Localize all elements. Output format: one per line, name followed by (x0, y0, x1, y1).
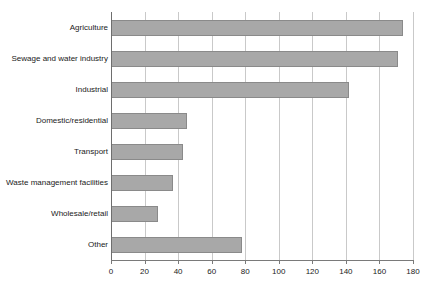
bar (111, 144, 183, 160)
category-label: Other (3, 240, 108, 250)
bar-row (111, 105, 413, 136)
bar (111, 237, 242, 253)
tick-mark-80 (245, 260, 246, 264)
tick-label-100: 100 (272, 267, 285, 276)
y-axis-line (111, 12, 112, 261)
tick-label-180: 180 (406, 267, 419, 276)
bar (111, 175, 173, 191)
plot-area (111, 12, 413, 260)
category-label: Domestic/residential (3, 116, 108, 126)
tick-label-160: 160 (373, 267, 386, 276)
tick-mark-140 (346, 260, 347, 264)
bar-row (111, 12, 413, 43)
tick-label-0: 0 (109, 267, 113, 276)
bar-row (111, 198, 413, 229)
tick-label-80: 80 (241, 267, 250, 276)
bar (111, 82, 349, 98)
bar-row (111, 43, 413, 74)
tick-mark-0 (111, 260, 112, 264)
tick-label-60: 60 (207, 267, 216, 276)
category-label: Transport (3, 147, 108, 157)
category-label: Industrial (3, 85, 108, 95)
bar-row (111, 136, 413, 167)
bar-row (111, 74, 413, 105)
tick-mark-20 (145, 260, 146, 264)
bar-row (111, 167, 413, 198)
bar (111, 206, 158, 222)
tick-mark-120 (312, 260, 313, 264)
tick-mark-60 (212, 260, 213, 264)
bar-chart: AgricultureSewage and water industryIndu… (0, 0, 426, 288)
tick-label-40: 40 (174, 267, 183, 276)
tick-mark-180 (413, 260, 414, 264)
tick-label-140: 140 (339, 267, 352, 276)
category-label: Waste management facilities (3, 178, 108, 188)
gridline-180 (413, 12, 414, 260)
bar (111, 113, 187, 129)
category-label: Agriculture (3, 23, 108, 33)
tick-mark-160 (379, 260, 380, 264)
tick-mark-100 (279, 260, 280, 264)
tick-mark-40 (178, 260, 179, 264)
category-label: Sewage and water industry (3, 54, 108, 64)
bar (111, 20, 403, 36)
category-label: Wholesale/retail (3, 209, 108, 219)
tick-label-120: 120 (306, 267, 319, 276)
category-axis-labels: AgricultureSewage and water industryIndu… (0, 12, 108, 260)
x-axis-line (111, 260, 413, 261)
bar-row (111, 229, 413, 260)
bar (111, 51, 398, 67)
tick-label-20: 20 (140, 267, 149, 276)
